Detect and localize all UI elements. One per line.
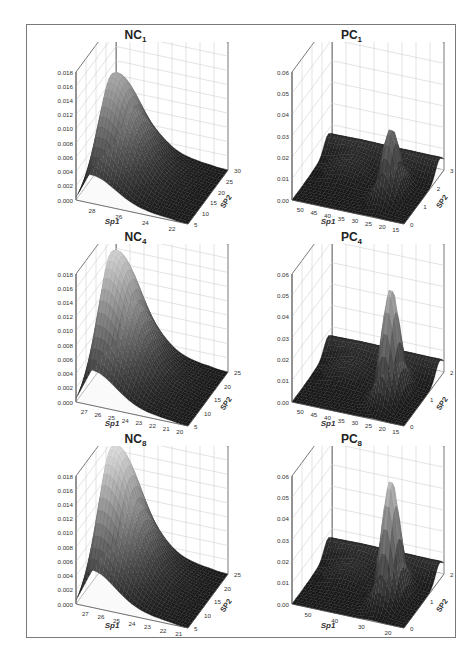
y-tick-label: 10 [202, 210, 209, 217]
z-tick-label: 0.05 [277, 292, 290, 299]
x-tick-label: 45 [310, 411, 317, 418]
y-tick-label: 0 [410, 625, 414, 632]
x-tick-label: 26 [97, 613, 104, 620]
y-axis-label: SP2 [218, 193, 234, 210]
x-tick-label: 28 [89, 207, 96, 214]
z-tick-label: 0.006 [58, 558, 74, 565]
x-tick-label: 24 [122, 417, 129, 424]
y-axis-label: SP2 [434, 395, 450, 412]
chart-title-main: PC [341, 432, 358, 446]
x-axis-label: Sp1 [105, 621, 120, 630]
x-tick-label: 25 [365, 422, 372, 429]
z-tick-label: 0.004 [58, 572, 74, 579]
y-tick-label: 30 [234, 167, 241, 174]
z-tick-label: 0.006 [58, 154, 74, 161]
y-tick-label: 1 [430, 396, 434, 403]
surface-plot: 0.0000.0020.0040.0060.0080.0100.0120.014… [28, 42, 243, 232]
z-tick-label: 0.012 [58, 313, 74, 320]
y-tick-label: 15 [214, 396, 221, 403]
z-tick-label: 0.03 [277, 133, 290, 140]
x-tick-label: 20 [385, 629, 392, 636]
y-tick-label: 1 [430, 598, 434, 605]
y-tick-label: 1 [423, 203, 427, 210]
z-tick-label: 0.00 [277, 601, 290, 608]
z-tick-label: 0.002 [58, 182, 74, 189]
z-tick-label: 0.016 [58, 83, 74, 90]
z-tick-label: 0.03 [277, 537, 290, 544]
z-tick-label: 0.004 [58, 168, 74, 175]
surface-plot: 0.0000.0020.0040.0060.0080.0100.0120.014… [28, 446, 243, 636]
chart-title-main: PC [341, 230, 358, 244]
chart-title-main: NC [125, 28, 142, 42]
surface-plot: 0.000.010.020.030.040.050.06504540353025… [244, 244, 459, 434]
z-tick-label: 0.010 [58, 125, 74, 132]
z-tick-label: 0.014 [58, 97, 74, 104]
z-tick-label: 0.03 [277, 335, 290, 342]
chart-title-main: PC [341, 28, 358, 42]
z-tick-label: 0.008 [58, 342, 74, 349]
x-tick-label: 27 [81, 408, 88, 415]
chart-title-main: NC [125, 432, 142, 446]
z-tick-label: 0.06 [277, 271, 290, 278]
chart-panel-pc4: PC40.000.010.020.030.040.050.06504540353… [244, 230, 459, 434]
z-tick-label: 0.000 [58, 601, 74, 608]
z-tick-label: 0.000 [58, 197, 74, 204]
chart-panel-pc8: PC80.000.010.020.030.040.050.0650403020S… [244, 432, 459, 636]
z-tick-label: 0.06 [277, 473, 290, 480]
z-tick-label: 0.016 [58, 285, 74, 292]
surface-plot: 0.000.010.020.030.040.050.06504540353025… [244, 42, 459, 232]
x-tick-label: 45 [310, 209, 317, 216]
y-tick-label: 2 [437, 185, 441, 192]
z-tick-label: 0.05 [277, 90, 290, 97]
chart-panel-pc1: PC10.000.010.020.030.040.050.06504540353… [244, 28, 459, 232]
x-tick-label: 23 [135, 419, 142, 426]
z-tick-label: 0.01 [277, 579, 290, 586]
x-tick-label: 24 [129, 620, 136, 627]
y-tick-label: 15 [214, 598, 221, 605]
x-tick-label: 50 [297, 408, 304, 415]
z-tick-label: 0.010 [58, 327, 74, 334]
z-tick-label: 0.008 [58, 544, 74, 551]
x-axis-label: Sp1 [321, 621, 336, 630]
x-axis-label: Sp1 [321, 419, 336, 428]
z-tick-label: 0.018 [58, 271, 74, 278]
z-tick-label: 0.016 [58, 487, 74, 494]
x-axis-label: Sp1 [321, 217, 336, 226]
y-tick-label: 15 [210, 199, 217, 206]
x-tick-label: 24 [142, 219, 149, 226]
z-tick-label: 0.014 [58, 501, 74, 508]
y-tick-label: 25 [234, 369, 241, 376]
z-tick-label: 0.006 [58, 356, 74, 363]
z-tick-label: 0.018 [58, 69, 74, 76]
z-tick-label: 0.012 [58, 111, 74, 118]
y-tick-label: 5 [194, 221, 198, 228]
y-tick-label: 0 [410, 423, 414, 430]
z-tick-label: 0.002 [58, 586, 74, 593]
x-tick-label: 35 [338, 417, 345, 424]
z-tick-label: 0.002 [58, 384, 74, 391]
x-tick-label: 22 [160, 627, 167, 634]
z-tick-label: 0.012 [58, 515, 74, 522]
x-tick-label: 30 [351, 217, 358, 224]
y-tick-label: 2 [450, 571, 454, 578]
z-tick-label: 0.04 [277, 111, 290, 118]
x-tick-label: 25 [365, 220, 372, 227]
z-tick-label: 0.00 [277, 197, 290, 204]
y-tick-label: 10 [204, 612, 211, 619]
x-tick-label: 26 [94, 411, 101, 418]
z-tick-label: 0.06 [277, 69, 290, 76]
x-tick-label: 23 [144, 623, 151, 630]
z-tick-label: 0.004 [58, 370, 74, 377]
y-tick-label: 5 [194, 423, 198, 430]
y-tick-label: 0 [410, 221, 414, 228]
chart-title-main: NC [125, 230, 142, 244]
y-tick-label: 2 [450, 369, 454, 376]
y-tick-label: 25 [226, 178, 233, 185]
x-tick-label: 50 [297, 206, 304, 213]
x-tick-label: 30 [351, 419, 358, 426]
z-tick-label: 0.014 [58, 299, 74, 306]
z-tick-label: 0.02 [277, 356, 290, 363]
y-tick-label: 20 [224, 383, 231, 390]
z-tick-label: 0.008 [58, 140, 74, 147]
chart-panel-nc1: NC10.0000.0020.0040.0060.0080.0100.0120.… [28, 28, 243, 232]
